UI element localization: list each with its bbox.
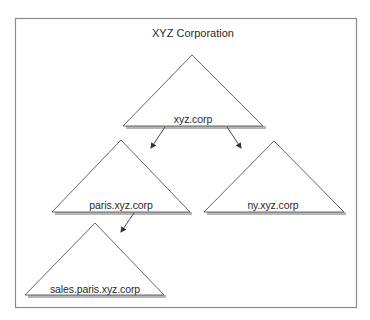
node-label-ny: ny.xyz.corp xyxy=(247,199,298,211)
diagram-canvas xyxy=(0,0,370,320)
node-label-paris: paris.xyz.corp xyxy=(89,199,152,211)
node-label-root: xyz.corp xyxy=(174,113,212,125)
diagram-title: XYZ Corporation xyxy=(152,27,234,39)
node-label-sales: sales.paris.xyz.corp xyxy=(50,283,140,295)
